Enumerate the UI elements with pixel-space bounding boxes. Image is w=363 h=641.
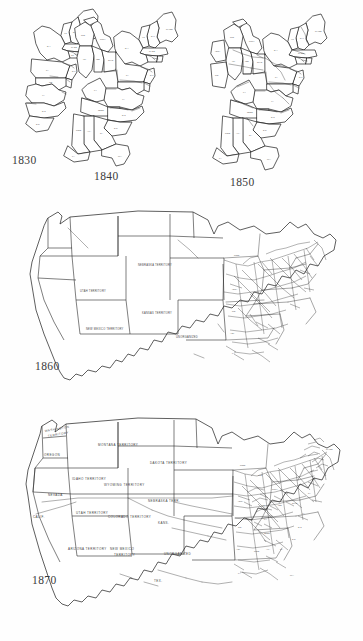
- svg-text:PA.: PA.: [126, 74, 130, 76]
- svg-text:S.C.: S.C.: [36, 123, 41, 125]
- svg-text:IND.: IND.: [96, 58, 101, 60]
- svg-text:ILL.: ILL.: [262, 504, 266, 506]
- svg-text:UNORGANIZED: UNORGANIZED: [164, 552, 192, 556]
- svg-text:N.H.: N.H.: [300, 37, 305, 39]
- svg-text:CALIF.: CALIF.: [33, 515, 45, 519]
- svg-text:VT.: VT.: [64, 32, 67, 34]
- svg-text:OREGON: OREGON: [44, 453, 60, 457]
- svg-text:ALA.: ALA.: [266, 548, 271, 550]
- svg-text:ALA.: ALA.: [236, 132, 241, 134]
- map-1870-svg: WASHINGTON TERRITORY OREGON IDAHO TERRIT…: [12, 410, 352, 630]
- map-panel-1840: MAINE N.H. VT. MASS. N.Y. MICH. WIS. ILL…: [72, 12, 192, 167]
- svg-text:PA.: PA.: [275, 76, 279, 78]
- svg-text:MISS.: MISS.: [254, 550, 260, 552]
- svg-text:WIS.: WIS.: [230, 36, 235, 38]
- svg-text:IOWA: IOWA: [238, 500, 244, 502]
- svg-text:IND.: IND.: [245, 60, 250, 62]
- svg-text:MISS.: MISS.: [225, 132, 231, 134]
- svg-text:NEVADA: NEVADA: [48, 493, 63, 497]
- svg-text:N.C.: N.C.: [42, 110, 47, 112]
- svg-text:UTAH TERRITORY: UTAH TERRITORY: [76, 511, 108, 515]
- svg-text:TERRITORY: TERRITORY: [114, 553, 135, 557]
- svg-text:WIS.: WIS.: [258, 474, 263, 476]
- railroad-growth-figure: MAINE N.H. VT. MASS. CT. N.Y. PA. N.J. M…: [0, 0, 363, 641]
- svg-text:VT.: VT.: [291, 38, 294, 40]
- svg-text:N.Y.: N.Y.: [47, 45, 51, 47]
- svg-text:S.C.: S.C.: [114, 127, 119, 129]
- svg-text:MASS.: MASS.: [149, 50, 156, 52]
- svg-text:MISS.: MISS.: [76, 129, 82, 131]
- svg-text:N.Y.: N.Y.: [274, 49, 278, 51]
- svg-text:IDAHO TERRITORY: IDAHO TERRITORY: [72, 477, 106, 481]
- svg-text:N.C.: N.C.: [271, 116, 276, 118]
- svg-text:LA.: LA.: [219, 157, 223, 159]
- map-panel-1850: MAINE N.H. VT. MASS. N.Y. MICH. WIS. ILL…: [213, 14, 343, 179]
- svg-text:TEX.: TEX.: [154, 579, 162, 583]
- svg-text:FLA.: FLA.: [267, 158, 272, 160]
- svg-text:ARK.: ARK.: [236, 548, 241, 550]
- svg-text:GA.: GA.: [280, 548, 284, 550]
- svg-text:MD.: MD.: [49, 81, 53, 83]
- svg-text:KANSAS TERRITORY: KANSAS TERRITORY: [142, 311, 172, 315]
- svg-text:LA.: LA.: [232, 352, 236, 354]
- svg-text:IOWA: IOWA: [232, 288, 238, 290]
- svg-text:VA.: VA.: [271, 100, 275, 102]
- year-label-1860: 1860: [35, 360, 60, 372]
- year-label-1870: 1870: [32, 574, 57, 586]
- svg-text:LA.: LA.: [238, 572, 242, 574]
- svg-text:KANS.: KANS.: [158, 521, 169, 525]
- svg-text:MAINE: MAINE: [315, 30, 322, 32]
- map-panel-1870: WASHINGTON TERRITORY OREGON IDAHO TERRIT…: [12, 410, 352, 630]
- svg-text:NEW MEXICO: NEW MEXICO: [110, 547, 134, 551]
- svg-text:N.Y.: N.Y.: [312, 478, 316, 480]
- svg-text:WIS.: WIS.: [81, 34, 86, 36]
- svg-text:VT.: VT.: [142, 36, 145, 38]
- svg-text:MICH.: MICH.: [100, 38, 106, 40]
- svg-text:GA.: GA.: [100, 132, 104, 134]
- svg-text:WYOMING TERRITORY: WYOMING TERRITORY: [104, 483, 145, 487]
- svg-text:KY.: KY.: [264, 518, 268, 520]
- svg-text:DAKOTA TERRITORY: DAKOTA TERRITORY: [150, 461, 187, 465]
- map-1850-outline: [211, 14, 327, 170]
- svg-text:N.Y.: N.Y.: [125, 47, 129, 49]
- svg-text:PA.: PA.: [46, 69, 50, 71]
- svg-text:UNORGANIZED: UNORGANIZED: [176, 335, 198, 339]
- svg-text:MINN.: MINN.: [234, 254, 240, 256]
- map-panel-1860: NEBRASKA TERRITORY UTAH TERRITORY KANSAS…: [18, 204, 344, 386]
- svg-text:NEW MEXICO TERRITORY: NEW MEXICO TERRITORY: [86, 327, 124, 331]
- svg-text:MAINE: MAINE: [166, 28, 173, 30]
- svg-text:KY.: KY.: [243, 91, 247, 93]
- year-label-1840: 1840: [94, 170, 119, 182]
- svg-text:MO.: MO.: [232, 310, 236, 312]
- svg-text:N.C.: N.C.: [298, 526, 303, 528]
- svg-text:MO.: MO.: [238, 526, 242, 528]
- svg-text:VA.: VA.: [302, 512, 306, 514]
- map-1860-svg: NEBRASKA TERRITORY UTAH TERRITORY KANSAS…: [18, 204, 344, 386]
- svg-text:GA.: GA.: [249, 134, 253, 136]
- svg-text:N.J.: N.J.: [299, 76, 303, 78]
- svg-text:S.C.: S.C.: [263, 129, 268, 131]
- svg-text:IOWA: IOWA: [215, 50, 221, 52]
- svg-text:IND.: IND.: [278, 504, 283, 506]
- svg-text:NEBRASKA TERRITORY: NEBRASKA TERRITORY: [138, 263, 172, 267]
- svg-text:FLA.: FLA.: [290, 574, 295, 576]
- svg-text:S.C.: S.C.: [292, 538, 297, 540]
- svg-text:TENN.: TENN.: [247, 111, 254, 113]
- map-1840-svg: MAINE N.H. VT. MASS. N.Y. MICH. WIS. ILL…: [72, 12, 192, 167]
- svg-text:KY.: KY.: [94, 89, 98, 91]
- year-label-1830: 1830: [12, 154, 37, 166]
- svg-text:ILL.: ILL.: [232, 60, 236, 62]
- svg-text:N.J.: N.J.: [150, 74, 154, 76]
- svg-text:UTAH TERRITORY: UTAH TERRITORY: [80, 289, 106, 293]
- svg-text:FLA.: FLA.: [118, 155, 123, 157]
- map-1850-svg: MAINE N.H. VT. MASS. N.Y. MICH. WIS. ILL…: [213, 14, 343, 179]
- year-label-1850: 1850: [230, 176, 255, 188]
- svg-text:LA.: LA.: [72, 155, 76, 157]
- svg-text:MINN.: MINN.: [240, 464, 246, 466]
- svg-text:ALA.: ALA.: [87, 130, 92, 132]
- svg-text:PA.: PA.: [308, 492, 312, 494]
- svg-text:MO.: MO.: [215, 74, 219, 76]
- svg-text:N.H.: N.H.: [151, 35, 156, 37]
- svg-text:MICH.: MICH.: [272, 488, 278, 490]
- svg-text:COLORADO TERRITORY: COLORADO TERRITORY: [108, 515, 151, 519]
